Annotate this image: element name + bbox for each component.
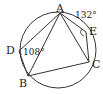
label-D: D bbox=[6, 44, 15, 57]
label-B: B bbox=[19, 77, 27, 90]
label-A: A bbox=[55, 2, 65, 15]
geometry-diagram: A E C B D 108° 132° bbox=[0, 0, 103, 94]
label-E: E bbox=[89, 25, 97, 38]
angle-E-value: 132° bbox=[75, 10, 97, 20]
label-C: C bbox=[92, 58, 100, 71]
diagonal-AC bbox=[60, 13, 89, 62]
angle-D-value: 108° bbox=[23, 47, 45, 57]
diagonal-AB bbox=[28, 13, 60, 76]
